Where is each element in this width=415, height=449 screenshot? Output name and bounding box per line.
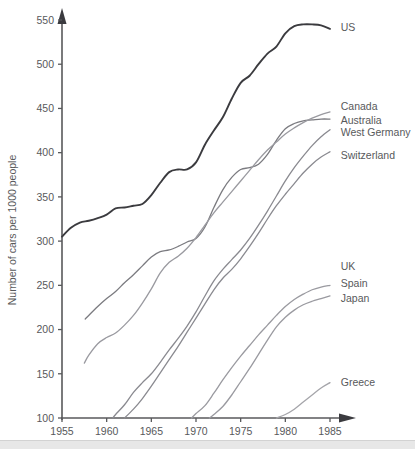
series-line-west-germany [113, 130, 330, 418]
chart-container: 1001502002503003504004505005501955196019… [0, 0, 415, 449]
series-label-japan: Japan [341, 292, 370, 304]
x-tick-label: 1965 [140, 425, 164, 437]
series-line-greece [276, 383, 330, 418]
series-line-australia [84, 112, 330, 363]
y-tick-label: 150 [36, 368, 54, 380]
series-label-canada: Canada [341, 100, 378, 112]
y-tick-label: 550 [36, 14, 54, 26]
series-label-us: US [341, 21, 356, 33]
x-tick-label: 1975 [229, 425, 253, 437]
y-tick-label: 300 [36, 235, 54, 247]
y-axis-arrow [58, 8, 67, 24]
line-chart: 1001502002503003504004505005501955196019… [0, 0, 415, 449]
x-tick-label: 1960 [95, 425, 119, 437]
y-axis-title: Number of cars per 1000 people [6, 155, 18, 306]
x-tick-label: 1985 [318, 425, 342, 437]
x-tick-label: 1970 [184, 425, 208, 437]
y-tick-label: 500 [36, 58, 54, 70]
x-tick-label: 1980 [274, 425, 298, 437]
series-label-switzerland: Switzerland [341, 149, 395, 161]
series-line-canada [85, 119, 330, 319]
series-label-australia: Australia [341, 114, 382, 126]
series-line-switzerland [125, 152, 330, 418]
y-tick-label: 350 [36, 191, 54, 203]
series-label-uk: UK [341, 260, 356, 272]
y-tick-label: 400 [36, 146, 54, 158]
y-tick-label: 200 [36, 323, 54, 335]
y-tick-label: 100 [36, 412, 54, 424]
x-tick-label: 1955 [50, 425, 74, 437]
series-label-west-germany: West Germany [341, 126, 412, 138]
series-label-greece: Greece [341, 376, 376, 388]
series-line-japan [209, 296, 330, 418]
caption-bar [0, 440, 415, 449]
y-tick-label: 250 [36, 279, 54, 291]
series-label-spain: Spain [341, 277, 368, 289]
y-tick-label: 450 [36, 102, 54, 114]
x-axis-arrow [339, 414, 356, 423]
